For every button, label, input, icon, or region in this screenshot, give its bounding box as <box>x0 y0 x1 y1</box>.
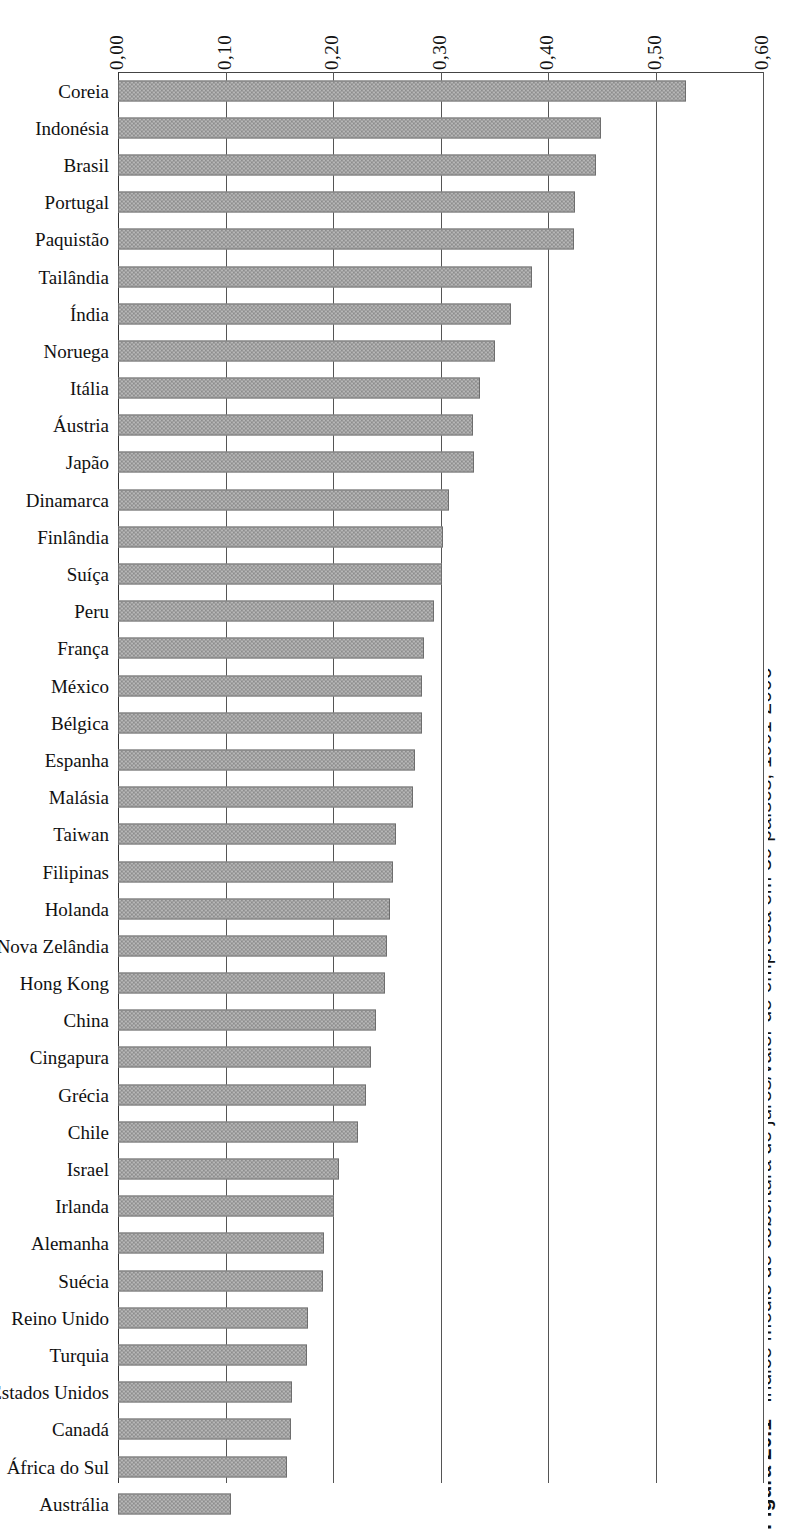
bar <box>118 1084 366 1105</box>
bar-category-label: Malásia <box>49 788 109 807</box>
bar-row: Cingapura <box>0 1039 808 1076</box>
figure-bar-chart: 0,000,100,200,300,400,500,60 CoreiaIndon… <box>0 0 808 1536</box>
bar <box>118 303 511 324</box>
bar-row: Hong Kong <box>0 965 808 1002</box>
bar-category-label: Suécia <box>58 1271 109 1290</box>
bar-row: Israel <box>0 1150 808 1187</box>
bar-row: Turquia <box>0 1336 808 1373</box>
figure-caption: Figura 20.1Índice médio de cobertura de … <box>768 50 806 1530</box>
bar <box>118 489 449 510</box>
bar-row: Finlândia <box>0 518 808 555</box>
bar <box>118 1307 308 1328</box>
bar-category-label: Austrália <box>39 1494 109 1513</box>
bar-row-group: CoreiaIndonésiaBrasilPortugalPaquistãoTa… <box>0 72 808 1522</box>
bar <box>118 1121 358 1142</box>
bar <box>118 1270 323 1291</box>
bar-row: Japão <box>0 444 808 481</box>
bar-row: Filipinas <box>0 853 808 890</box>
bar-row: Grécia <box>0 1076 808 1113</box>
bar <box>118 526 443 547</box>
bar-category-label: Espanha <box>45 750 109 769</box>
x-axis-tick-label: 0,30 <box>430 35 449 70</box>
bar <box>118 1159 339 1180</box>
bar-row: Portugal <box>0 184 808 221</box>
bar <box>118 80 686 101</box>
bar <box>118 1047 371 1068</box>
bar-category-label: Alemanha <box>31 1234 109 1253</box>
bar-row: Estados Unidos <box>0 1374 808 1411</box>
bar-category-label: Noruega <box>44 341 109 360</box>
bar-category-label: África do Sul <box>7 1457 109 1476</box>
bar-row: México <box>0 667 808 704</box>
figure-number: Figura 20.1 <box>768 1419 775 1530</box>
bar-row: Reino Unido <box>0 1299 808 1336</box>
bar <box>118 229 574 250</box>
bar-row: Austrália <box>0 1485 808 1522</box>
bar-row: Nova Zelândia <box>0 927 808 964</box>
bar-category-label: Índia <box>70 304 109 323</box>
bar <box>118 192 575 213</box>
x-axis-tick-label: 0,00 <box>107 35 126 70</box>
bar-category-label: França <box>57 639 109 658</box>
bar-category-label: Peru <box>74 602 109 621</box>
bar <box>118 340 495 361</box>
bar-row: Noruega <box>0 332 808 369</box>
bar <box>118 787 413 808</box>
bar-row: Holanda <box>0 890 808 927</box>
bar <box>118 1493 231 1514</box>
x-axis-tick-label: 0,40 <box>537 35 556 70</box>
bar-category-label: Nova Zelândia <box>0 936 109 955</box>
bar <box>118 935 387 956</box>
bar-category-label: Suíça <box>67 565 109 584</box>
bar <box>118 378 480 399</box>
bar-category-label: Coreia <box>58 81 109 100</box>
bar-category-label: Tailândia <box>39 267 109 286</box>
bar-row: Tailândia <box>0 258 808 295</box>
bar-row: Irlanda <box>0 1188 808 1225</box>
bar <box>118 564 442 585</box>
bar-row: Peru <box>0 593 808 630</box>
bar-category-label: Finlândia <box>37 527 109 546</box>
x-axis-tick-label: 0,20 <box>322 35 341 70</box>
bar <box>118 861 393 882</box>
bar <box>118 1382 292 1403</box>
bar <box>118 1456 287 1477</box>
bar-category-label: Portugal <box>45 193 109 212</box>
bar-row: França <box>0 630 808 667</box>
bar <box>118 824 396 845</box>
bar <box>118 749 415 770</box>
bar-category-label: México <box>51 676 109 695</box>
bar <box>118 154 596 175</box>
bar <box>118 898 390 919</box>
bar <box>118 1233 324 1254</box>
bar-category-label: China <box>64 1011 109 1030</box>
bar <box>118 1344 307 1365</box>
x-axis-tick-label: 0,10 <box>215 35 234 70</box>
bar-row: Coreia <box>0 72 808 109</box>
bar <box>118 452 474 473</box>
bar-category-label: Grécia <box>58 1085 109 1104</box>
bar-row: Chile <box>0 1113 808 1150</box>
figure-caption-body: Índice médio de cobertura de juros/valor… <box>768 668 775 1403</box>
bar-category-label: Turquia <box>50 1345 109 1364</box>
x-axis-tick-label-group: 0,000,100,200,300,400,500,60 <box>0 0 808 72</box>
bar-row: China <box>0 1002 808 1039</box>
bar-row: Alemanha <box>0 1225 808 1262</box>
bar-category-label: Indonésia <box>35 118 109 137</box>
bar-row: Dinamarca <box>0 481 808 518</box>
bar <box>118 266 532 287</box>
bar-category-label: Chile <box>68 1122 109 1141</box>
bar-row: Paquistão <box>0 221 808 258</box>
bar-row: Malásia <box>0 779 808 816</box>
bar-category-label: Hong Kong <box>20 974 109 993</box>
bar-row: Áustria <box>0 407 808 444</box>
bar-category-label: Canadá <box>52 1420 109 1439</box>
bar-category-label: Taiwan <box>53 825 109 844</box>
bar <box>118 1196 334 1217</box>
bar <box>118 601 434 622</box>
bar-category-label: Áustria <box>53 416 109 435</box>
bar-category-label: Filipinas <box>42 862 109 881</box>
bar-category-label: Dinamarca <box>26 490 109 509</box>
bar <box>118 1419 291 1440</box>
bar-row: Suécia <box>0 1262 808 1299</box>
